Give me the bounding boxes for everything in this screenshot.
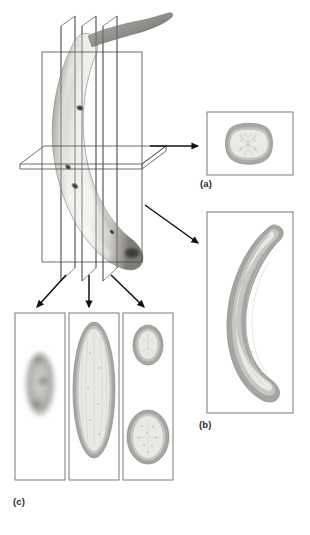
panel-c3-section-lower	[127, 410, 169, 464]
panel-a	[207, 112, 293, 175]
arrow-to-panel-c1	[37, 275, 66, 307]
arrow-to-panel-c3	[111, 275, 144, 307]
panel-c3	[123, 313, 173, 480]
panel-a-section	[225, 123, 272, 164]
panel-a-label: (a)	[200, 178, 212, 189]
panel-c1	[15, 313, 65, 480]
panel-c3-section-upper	[133, 325, 163, 365]
panel-c-label: (c)	[13, 496, 25, 507]
panel-c2	[69, 313, 119, 480]
arrow-to-panel-b	[145, 205, 198, 243]
panel-b	[207, 212, 293, 413]
scene-3d-banana	[20, 13, 173, 281]
panel-c1-section	[26, 353, 54, 417]
panel-b-label: (b)	[199, 419, 212, 430]
banana-body	[52, 13, 173, 270]
banana-section-figure	[0, 0, 310, 535]
figure-root: (a) (b) (c)	[0, 0, 310, 535]
panel-c2-section	[73, 322, 115, 458]
